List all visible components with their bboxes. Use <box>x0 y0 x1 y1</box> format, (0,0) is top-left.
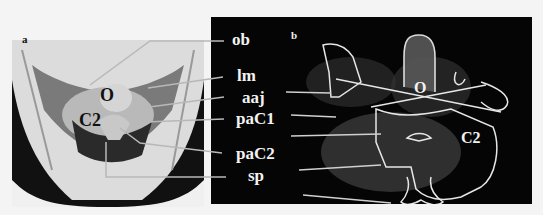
radiograph-image <box>12 40 204 207</box>
panel-b-letter: b <box>291 29 297 41</box>
panel-a-label-axis: C2 <box>79 111 101 129</box>
panel-a-label-occiput: O <box>100 86 114 104</box>
label-paC2: paC2 <box>236 145 275 162</box>
panel-a-letter: a <box>22 33 28 45</box>
panel-b-label-axis: C2 <box>461 130 481 146</box>
label-paC1: paC1 <box>236 110 275 127</box>
label-lm: lm <box>237 67 256 84</box>
label-ob: ob <box>232 31 250 48</box>
figure: b O C2 a O C2 ob lm aaj paC1 paC2 sp <box>0 0 543 215</box>
label-sp: sp <box>248 167 264 184</box>
panel-a-radiograph <box>12 40 204 207</box>
label-aaj: aaj <box>242 89 265 106</box>
panel-b-label-occiput: O <box>414 80 426 96</box>
